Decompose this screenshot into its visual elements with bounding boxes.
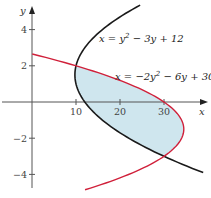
chart: 10203042−2−4 y x x = y2 − 3y + 12 x = −2… xyxy=(0,0,211,198)
y-tick-label: −2 xyxy=(13,133,27,144)
x-axis-arrow xyxy=(200,99,208,105)
y-tick-label: 4 xyxy=(21,24,27,35)
equation-label-1: x = y2 − 3y + 12 xyxy=(99,32,184,44)
y-axis-label: y xyxy=(19,5,26,16)
x-tick-label: 20 xyxy=(114,106,126,117)
x-axis-label: x xyxy=(199,106,205,117)
y-tick-label: −4 xyxy=(13,169,27,180)
y-tick-label: 2 xyxy=(21,60,27,71)
equation-label-2: x = −2y2 − 6y + 30 xyxy=(115,70,211,82)
y-axis-arrow xyxy=(29,6,35,14)
x-tick-label: 10 xyxy=(70,106,82,117)
x-tick-label: 30 xyxy=(158,106,170,117)
